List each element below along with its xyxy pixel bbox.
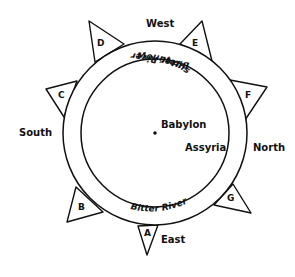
label-b: B [78, 202, 85, 212]
place-babylon: Babylon [161, 119, 206, 130]
map-svg: D E F C B G A West East South North Baby… [0, 0, 295, 277]
direction-west: West [146, 18, 174, 29]
direction-south: South [19, 127, 52, 138]
ring-label-top-river: Bitter River [241, 122, 295, 132]
direction-east: East [161, 234, 186, 245]
label-f: F [245, 90, 251, 100]
babylonian-world-map: D E F C B G A West East South North Baby… [0, 0, 295, 277]
label-e: E [192, 38, 198, 48]
direction-north: North [253, 142, 285, 153]
label-a: A [144, 228, 151, 238]
label-c: C [58, 90, 65, 100]
place-assyria: Assyria [185, 142, 226, 153]
babylon-dot [153, 131, 157, 135]
label-d: D [97, 38, 104, 48]
label-g: G [227, 193, 234, 203]
